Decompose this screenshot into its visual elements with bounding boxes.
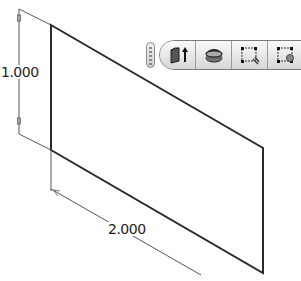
dimension-horizontal-value[interactable]: 2.000 — [108, 222, 146, 236]
sketch-point-button[interactable] — [268, 41, 301, 69]
toolbar-grip-handle[interactable] — [146, 42, 155, 68]
edit-sketch-button[interactable] — [232, 41, 268, 69]
extension-line-top — [19, 9, 51, 25]
revolve-icon — [203, 45, 225, 65]
sketch-point-icon — [275, 45, 297, 65]
mini-toolbar — [146, 40, 301, 70]
toolbar-button-group — [159, 40, 301, 70]
extrude-icon — [168, 45, 190, 65]
sketch-edit-icon — [239, 45, 261, 65]
extrude-button[interactable] — [160, 41, 196, 69]
revolve-button[interactable] — [196, 41, 232, 69]
extension-line-bottom — [19, 134, 51, 150]
dimension-vertical-value[interactable]: 1.000 — [1, 65, 39, 79]
